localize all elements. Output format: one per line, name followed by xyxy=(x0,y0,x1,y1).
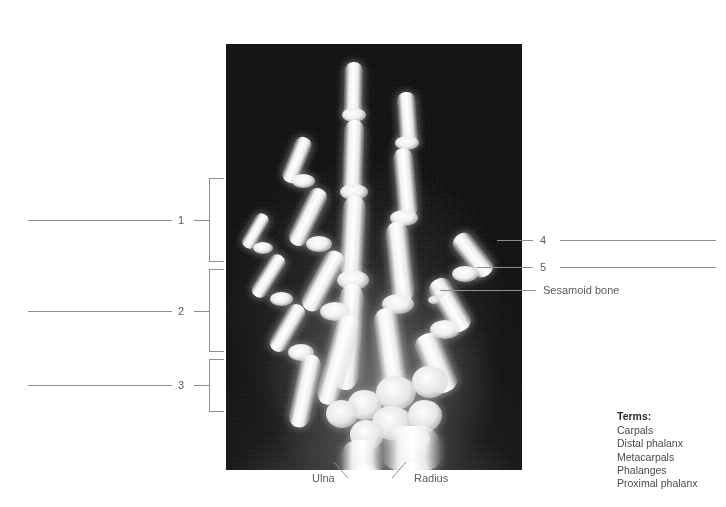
bone-middle-phalanx-2 xyxy=(342,120,366,193)
label-number-1: 1 xyxy=(178,215,184,226)
answer-line-4[interactable] xyxy=(560,240,716,241)
label-number-5: 5 xyxy=(540,262,546,273)
bracket-2-stem xyxy=(194,311,210,312)
terms-title: Terms: xyxy=(617,410,698,423)
bracket-2-top-tick xyxy=(209,269,224,270)
bone-joint-dip-5 xyxy=(253,242,273,254)
bracket-3-top-tick xyxy=(209,359,224,360)
bone-joint-ip-1 xyxy=(452,266,478,282)
answer-line-3[interactable] xyxy=(28,385,172,386)
bracket-3-stem xyxy=(194,385,210,386)
term-item-phalanges: Phalanges xyxy=(617,464,698,477)
callout-sesamoid-bone: Sesamoid bone xyxy=(543,285,619,296)
bracket-1-top-tick xyxy=(209,178,224,179)
bracket-2-bottom-tick xyxy=(209,351,224,352)
bone-joint-pip-4 xyxy=(306,236,332,252)
bracket-1-stem xyxy=(194,220,210,221)
term-item-distal-phalanx: Distal phalanx xyxy=(617,437,698,450)
leader-line-5 xyxy=(477,267,533,268)
bracket-3-bottom-tick xyxy=(209,411,224,412)
figure-canvas: 1 2 3 4 5 Sesamoid bone Ulna Radius Term… xyxy=(0,0,726,507)
answer-line-2[interactable] xyxy=(28,311,172,312)
term-item-proximal-phalanx: Proximal phalanx xyxy=(617,477,698,490)
label-number-4: 4 xyxy=(540,235,546,246)
leader-line-radius xyxy=(392,462,414,478)
bone-joint-dip-4 xyxy=(292,174,315,188)
term-item-metacarpals: Metacarpals xyxy=(617,451,698,464)
term-item-carpals: Carpals xyxy=(617,424,698,437)
answer-line-5[interactable] xyxy=(560,267,716,268)
leader-line-sesamoid-bone xyxy=(440,290,536,291)
bracket-1-bottom-tick xyxy=(209,261,224,262)
answer-line-1[interactable] xyxy=(28,220,172,221)
terms-box: Terms: Carpals Distal phalanx Metacarpal… xyxy=(617,410,698,490)
leader-line-4 xyxy=(497,240,533,241)
label-number-3: 3 xyxy=(178,380,184,391)
callout-radius: Radius xyxy=(414,473,448,484)
hand-xray-image xyxy=(226,44,522,470)
callout-ulna: Ulna xyxy=(312,473,335,484)
bone-joint-pip-5 xyxy=(270,292,293,306)
bone-sesamoid-2 xyxy=(428,296,439,304)
label-number-2: 2 xyxy=(178,306,184,317)
